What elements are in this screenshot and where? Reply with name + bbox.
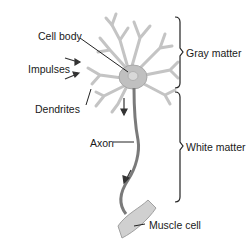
cell-body-label: Cell body (38, 31, 82, 42)
nucleus (128, 72, 138, 81)
white-matter-bracket (175, 92, 183, 202)
gray-matter-label: Gray matter (186, 48, 241, 59)
white-matter-label: White matter (186, 142, 246, 153)
dendrites-label: Dendrites (35, 104, 80, 115)
axon-label: Axon (90, 138, 114, 149)
muscle-cell-label: Muscle cell (149, 220, 201, 231)
impulses-label: Impulses (28, 64, 70, 75)
